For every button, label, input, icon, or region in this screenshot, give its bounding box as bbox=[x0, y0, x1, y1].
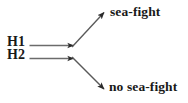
hypothesis-label-h2: H2 bbox=[7, 48, 25, 62]
arrow-junction-to-sea-fight bbox=[72, 13, 104, 48]
diagram-canvas: H1 H2 sea-fight no sea-fight bbox=[0, 0, 188, 103]
outcome-label-sea-fight: sea-fight bbox=[110, 5, 160, 19]
outcome-label-no-sea-fight: no sea-fight bbox=[109, 80, 177, 94]
arrow-junction-to-no-sea-fight bbox=[72, 57, 104, 89]
